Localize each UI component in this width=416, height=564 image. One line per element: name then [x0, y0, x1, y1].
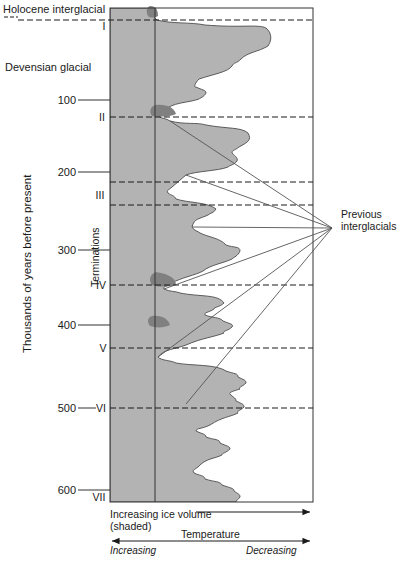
y-axis-label: Thousands of years before present [22, 174, 34, 354]
y-tick-label-200: 200 [36, 167, 76, 178]
y-tick-label-400: 400 [36, 320, 76, 331]
termination-label-VII: VII [88, 492, 110, 503]
ice-volume-figure: Holocene interglacial Devensian glacial … [0, 0, 416, 564]
termination-label-IV: IV [90, 280, 112, 291]
termination-label-II: II [91, 112, 113, 123]
temperature-axis-title: Temperature [181, 529, 240, 540]
termination-label-V: V [92, 343, 114, 354]
temperature-increasing-label: Increasing [110, 546, 156, 556]
figure-canvas [0, 0, 416, 564]
termination-label-I: I [93, 21, 115, 32]
y-tick-label-300: 300 [36, 245, 76, 256]
temperature-decreasing-label: Decreasing [246, 546, 297, 556]
y-tick-label-600: 600 [36, 485, 76, 496]
holocene-label: Holocene interglacial [3, 4, 105, 15]
termination-label-VI: VI [90, 403, 112, 414]
y-tick-label-500: 500 [36, 403, 76, 414]
devensian-label: Devensian glacial [5, 62, 91, 73]
termination-label-III: III [89, 190, 111, 201]
previous-interglacials-label: Previous interglacials [341, 208, 396, 232]
y-tick-label-100: 100 [36, 95, 76, 106]
